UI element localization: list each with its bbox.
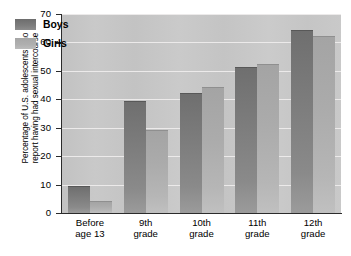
plot-area — [62, 14, 341, 213]
legend-label-boys: Boys — [43, 19, 68, 30]
y-tick-mark-0 — [56, 213, 61, 214]
y-tick-mark-10 — [56, 185, 61, 186]
bar-girls-0 — [90, 201, 112, 213]
y-tick-mark-20 — [56, 156, 61, 157]
y-tick-mark-40 — [56, 99, 61, 100]
category-label-4: 12thgrade — [285, 217, 341, 239]
bar-boys-2 — [180, 93, 202, 213]
category-label-2: 10thgrade — [174, 217, 230, 239]
category-label-3: 11thgrade — [229, 217, 285, 239]
category-label-line-2: grade — [285, 228, 341, 239]
bar-chart: Percentage of U.S. adolescents who repor… — [0, 0, 351, 256]
category-label-line-2: age 13 — [62, 228, 118, 239]
y-tick-label-20: 20 — [11, 151, 51, 161]
y-tick-label-50: 50 — [11, 66, 51, 76]
y-tick-label-10: 10 — [11, 180, 51, 190]
y-tick-mark-30 — [56, 128, 61, 129]
category-label-line-2: grade — [174, 228, 230, 239]
category-label-line-1: Before — [62, 217, 118, 228]
category-label-1: 9thgrade — [118, 217, 174, 239]
bar-boys-0 — [68, 186, 90, 213]
category-label-line-1: 9th — [118, 217, 174, 228]
bar-girls-3 — [257, 64, 279, 213]
category-label-line-2: grade — [118, 228, 174, 239]
bar-boys-3 — [235, 67, 257, 213]
category-label-line-1: 12th — [285, 217, 341, 228]
category-label-line-1: 10th — [174, 217, 230, 228]
legend-item-girls: Girls — [15, 35, 68, 51]
x-axis-line — [61, 213, 342, 214]
category-label-line-1: 11th — [229, 217, 285, 228]
y-tick-label-40: 40 — [11, 94, 51, 104]
bar-girls-4 — [313, 36, 335, 213]
legend-item-boys: Boys — [15, 16, 68, 32]
y-tick-mark-50 — [56, 71, 61, 72]
bar-girls-1 — [146, 130, 168, 213]
legend-swatch-boys-icon — [15, 19, 36, 30]
bar-girls-2 — [202, 87, 224, 213]
legend: Boys Girls — [15, 16, 68, 54]
bar-boys-4 — [291, 30, 313, 213]
y-tick-mark-70 — [56, 14, 61, 15]
y-tick-label-30: 30 — [11, 123, 51, 133]
y-tick-label-0: 0 — [11, 208, 51, 218]
category-label-0: Beforeage 13 — [62, 217, 118, 239]
bar-boys-1 — [124, 101, 146, 213]
category-label-line-2: grade — [229, 228, 285, 239]
legend-label-girls: Girls — [43, 38, 67, 49]
gridline-70 — [62, 14, 341, 15]
legend-swatch-girls-icon — [15, 38, 36, 49]
